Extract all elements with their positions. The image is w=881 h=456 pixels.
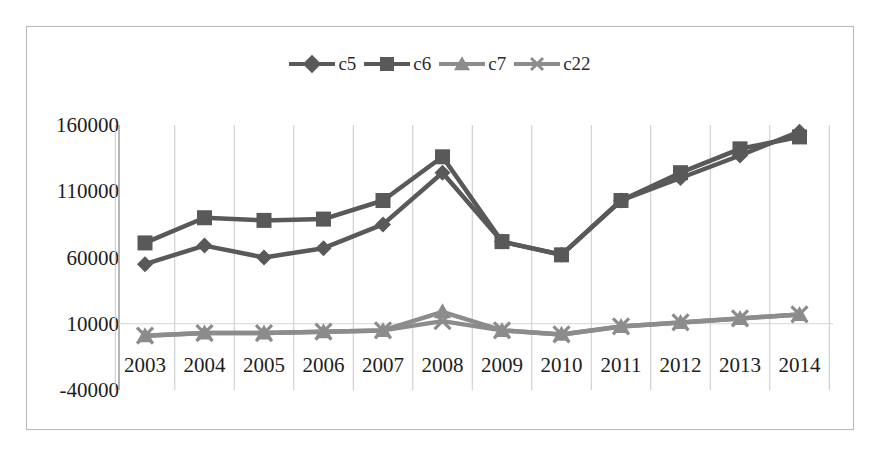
legend-key-c5	[289, 55, 335, 73]
marker-square	[197, 210, 212, 225]
legend-label-c6: c6	[413, 53, 431, 75]
chart-series-canvas	[27, 27, 855, 431]
legend-item-c22[interactable]: c22	[514, 53, 590, 75]
marker-square	[614, 193, 629, 208]
legend-item-c7[interactable]: c7	[439, 53, 506, 75]
chart-legend: c5c6c7c22	[27, 53, 853, 75]
legend-label-c22: c22	[563, 53, 590, 75]
chart-frame: 1600001100006000010000-40000 20032004200…	[26, 26, 854, 430]
triangle-marker-icon	[454, 56, 470, 70]
legend-item-c5[interactable]: c5	[289, 53, 356, 75]
square-marker-icon	[380, 57, 394, 71]
marker-square	[257, 213, 272, 228]
chart-plot-area: 1600001100006000010000-40000 20032004200…	[27, 27, 855, 431]
legend-key-c22	[514, 55, 560, 73]
marker-square	[733, 141, 748, 156]
marker-square	[673, 165, 688, 180]
marker-square	[554, 247, 569, 262]
legend-item-c6[interactable]: c6	[364, 53, 431, 75]
marker-square	[138, 235, 153, 250]
marker-diamond	[316, 240, 332, 256]
marker-square	[316, 212, 331, 227]
legend-label-c5: c5	[338, 53, 356, 75]
marker-square	[792, 129, 807, 144]
marker-diamond	[197, 238, 213, 254]
legend-key-c7	[439, 55, 485, 73]
marker-square	[495, 234, 510, 249]
marker-diamond	[256, 250, 272, 266]
legend-label-c7: c7	[488, 53, 506, 75]
diamond-marker-icon	[303, 55, 321, 73]
marker-square	[376, 193, 391, 208]
marker-diamond	[137, 256, 153, 272]
marker-square	[435, 149, 450, 164]
legend-key-c6	[364, 55, 410, 73]
x-marker-icon	[529, 56, 545, 72]
